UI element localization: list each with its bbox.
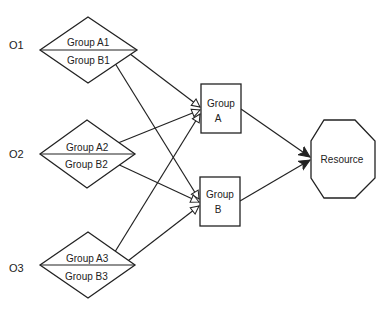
group-label: Group B3	[65, 271, 108, 282]
group-a-node: Group A	[201, 84, 241, 133]
origin-label: O3	[9, 262, 24, 274]
group-label: Group B1	[67, 55, 110, 66]
origin-o3: O3 Group A3 Group B3	[9, 232, 135, 298]
group-label: Group A2	[66, 142, 109, 153]
group-b-line2: B	[215, 204, 222, 215]
resource-label: Resource	[321, 154, 364, 165]
edges	[111, 41, 310, 274]
group-label: Group B2	[65, 159, 108, 170]
edge-b1-to-group-b	[113, 60, 199, 199]
edge-a2-to-group-a	[113, 110, 200, 145]
origin-o1: O1 Group A1 Group B1	[9, 17, 137, 83]
resource-node: Resource	[311, 120, 375, 198]
group-a-line1: Group	[207, 98, 235, 109]
origin-o2: O2 Group A2 Group B2	[9, 120, 135, 188]
group-label: Group A1	[67, 37, 110, 48]
origin-label: O1	[9, 39, 24, 51]
edge-a3-to-group-a	[113, 114, 200, 255]
edge-b2-to-group-b	[113, 162, 199, 202]
origin-label: O2	[9, 148, 24, 160]
group-b-node: Group B	[200, 177, 240, 226]
edge-group-a-to-resource	[241, 109, 310, 157]
group-a-line2: A	[215, 113, 222, 124]
group-label: Group A3	[66, 253, 109, 264]
group-b-box[interactable]	[200, 177, 240, 226]
group-b-line1: Group	[206, 189, 234, 200]
edge-group-b-to-resource	[240, 160, 310, 201]
diagram-canvas: O1 Group A1 Group B1 O2 Group A2 Group B…	[0, 0, 385, 316]
